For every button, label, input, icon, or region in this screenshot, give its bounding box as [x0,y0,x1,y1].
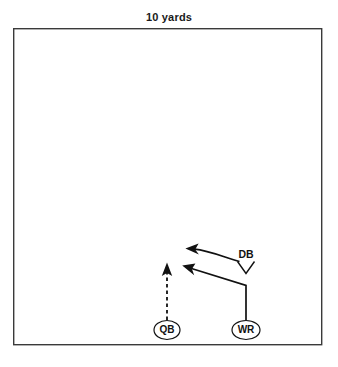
db-label: DB [238,248,254,260]
wr-label: WR [238,324,255,335]
player-marker-qb[interactable]: QB [154,321,180,340]
player-marker-wr[interactable]: WR [232,321,260,340]
play-diagram: 10 yards DB [0,0,338,367]
field-canvas: DB QB WR [0,0,338,367]
qb-label: QB [160,324,175,335]
